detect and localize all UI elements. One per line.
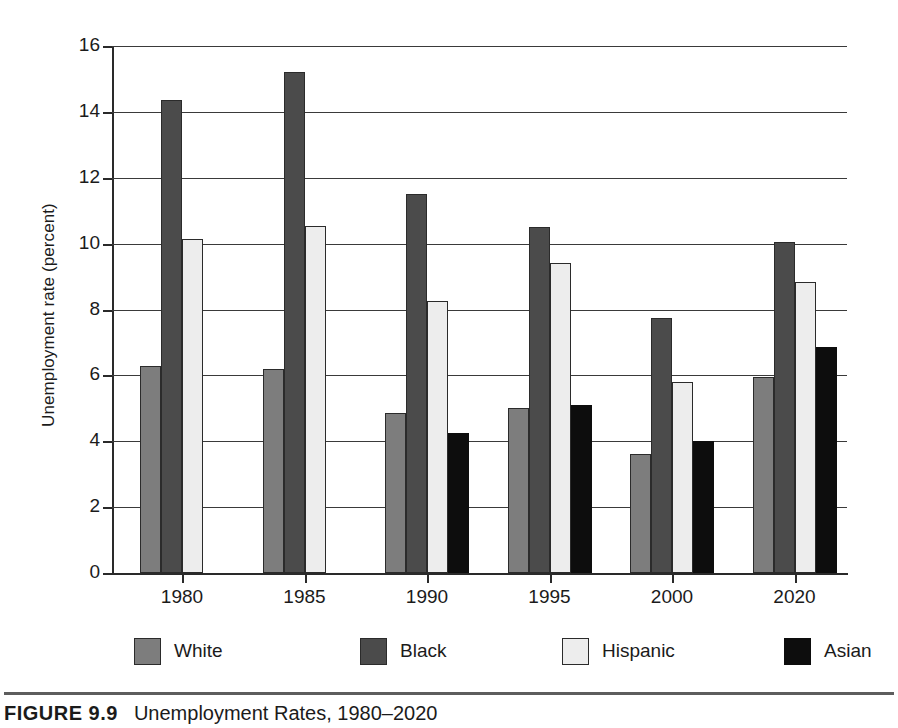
bar-group bbox=[140, 46, 224, 573]
bar-white-2000 bbox=[630, 454, 651, 573]
legend-swatch-asian bbox=[784, 638, 811, 665]
x-axis-tick-mark bbox=[305, 573, 307, 583]
bar-white-1985 bbox=[263, 369, 284, 573]
bar-group bbox=[263, 46, 347, 573]
legend-label-hispanic: Hispanic bbox=[602, 640, 675, 662]
y-axis-tick-label: 10 bbox=[60, 233, 100, 252]
x-axis-tick-mark bbox=[795, 573, 797, 583]
legend-label-asian: Asian bbox=[824, 640, 872, 662]
y-axis-tick-mark bbox=[103, 244, 112, 246]
y-axis-tick-mark bbox=[103, 375, 112, 377]
x-axis-tick-label-1990: 1990 bbox=[382, 586, 472, 608]
bar-asian-2020 bbox=[816, 347, 837, 573]
bar-white-1980 bbox=[140, 366, 161, 574]
bar-hispanic-1985 bbox=[305, 226, 326, 573]
bar-white-1990 bbox=[385, 413, 406, 573]
figure-caption: FIGURE 9.9Unemployment Rates, 1980–2020 bbox=[4, 702, 894, 728]
y-axis-tick-label: 0 bbox=[60, 562, 100, 581]
y-axis-title: Unemployment rate (percent) bbox=[39, 145, 59, 485]
y-axis-tick-mark bbox=[103, 178, 112, 180]
bar-group bbox=[630, 46, 714, 573]
caption-divider bbox=[4, 692, 894, 695]
bar-white-1995 bbox=[508, 408, 529, 573]
y-axis-tick-label: 6 bbox=[60, 364, 100, 383]
y-axis-tick-label: 12 bbox=[60, 167, 100, 186]
legend-swatch-black bbox=[360, 638, 387, 665]
bar-group bbox=[508, 46, 592, 573]
y-axis-tick-mark bbox=[103, 310, 112, 312]
caption-figure-number: FIGURE 9.9 bbox=[4, 702, 118, 724]
x-axis-tick-mark bbox=[672, 573, 674, 583]
bar-black-2000 bbox=[651, 318, 672, 573]
bar-hispanic-1980 bbox=[182, 239, 203, 573]
x-axis-tick-label-1980: 1980 bbox=[137, 586, 227, 608]
y-axis-tick-label: 2 bbox=[60, 496, 100, 515]
x-axis-line bbox=[112, 573, 848, 575]
legend-label-black: Black bbox=[400, 640, 446, 662]
x-axis-tick-mark bbox=[427, 573, 429, 583]
legend-label-white: White bbox=[174, 640, 223, 662]
x-axis-tick-label-1995: 1995 bbox=[505, 586, 595, 608]
bar-hispanic-2020 bbox=[795, 282, 816, 573]
bar-black-1980 bbox=[161, 100, 182, 573]
bar-black-1990 bbox=[406, 194, 427, 573]
legend-item-black[interactable]: Black bbox=[360, 634, 446, 668]
y-axis-tick-mark bbox=[103, 112, 112, 114]
bar-hispanic-1995 bbox=[550, 263, 571, 573]
y-axis-tick-label: 16 bbox=[60, 35, 100, 54]
x-axis-tick-mark bbox=[182, 573, 184, 583]
legend-swatch-hispanic bbox=[562, 638, 589, 665]
y-axis-tick-label: 4 bbox=[60, 430, 100, 449]
legend-item-hispanic[interactable]: Hispanic bbox=[562, 634, 675, 668]
bar-white-2020 bbox=[753, 377, 774, 573]
legend-item-white[interactable]: White bbox=[134, 634, 223, 668]
legend-item-asian[interactable]: Asian bbox=[784, 634, 872, 668]
chart-legend: WhiteBlackHispanicAsian bbox=[112, 634, 847, 668]
x-axis-tick-label-2000: 2000 bbox=[627, 586, 717, 608]
x-axis-tick-label-2020: 2020 bbox=[750, 586, 840, 608]
y-axis-tick-mark bbox=[103, 46, 112, 48]
x-axis-tick-mark bbox=[550, 573, 552, 583]
y-axis-tick-mark bbox=[103, 507, 112, 509]
y-axis-tick-label: 14 bbox=[60, 101, 100, 120]
bar-asian-1990 bbox=[448, 433, 469, 573]
bar-hispanic-1990 bbox=[427, 301, 448, 573]
bar-black-1995 bbox=[529, 227, 550, 573]
bar-asian-1995 bbox=[571, 405, 592, 573]
plot-area bbox=[112, 46, 847, 573]
bar-asian-2000 bbox=[693, 441, 714, 573]
bar-group bbox=[385, 46, 469, 573]
y-axis-tick-label: 8 bbox=[60, 299, 100, 318]
x-axis-tick-label-1985: 1985 bbox=[260, 586, 350, 608]
bar-black-2020 bbox=[774, 242, 795, 573]
y-axis-tick-mark bbox=[103, 573, 112, 575]
bar-black-1985 bbox=[284, 72, 305, 573]
legend-swatch-white bbox=[134, 638, 161, 665]
caption-figure-title: Unemployment Rates, 1980–2020 bbox=[134, 702, 438, 724]
bar-hispanic-2000 bbox=[672, 382, 693, 573]
y-axis-tick-mark bbox=[103, 441, 112, 443]
bar-group bbox=[753, 46, 837, 573]
